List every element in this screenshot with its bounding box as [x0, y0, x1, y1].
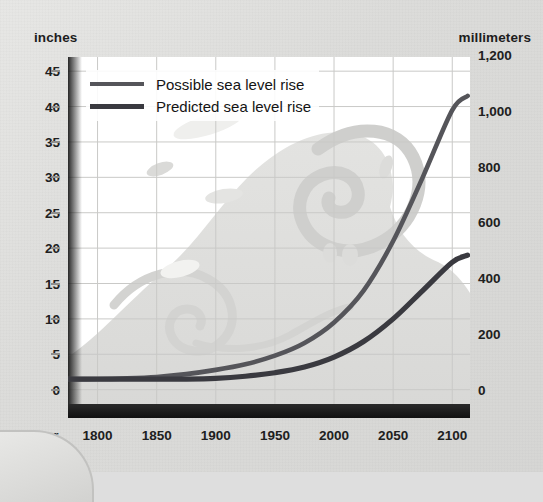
left-tick-mark	[51, 106, 60, 108]
right-tick-label: 600	[478, 215, 501, 230]
legend-swatch-possible-icon	[90, 82, 144, 86]
left-tick-mark	[51, 212, 60, 214]
right-tick-label: 800	[478, 159, 501, 174]
x-tick-label: 2100	[437, 428, 467, 443]
right-tick-label: 1,000	[478, 104, 512, 119]
x-tick-label: 1850	[142, 428, 172, 443]
x-tick-label: 1900	[201, 428, 231, 443]
left-tick-mark	[51, 141, 60, 143]
left-tick-mark	[51, 283, 60, 285]
right-tick-label: 0	[478, 382, 486, 397]
left-tick-mark	[51, 70, 60, 72]
left-axis-units-label: inches	[34, 30, 77, 45]
right-tick-label: 1,200	[478, 48, 512, 63]
left-tick-mark	[51, 389, 60, 391]
legend-item-possible: Possible sea level rise	[90, 73, 311, 95]
left-axis-ticks: 051015202530354045	[16, 57, 60, 418]
legend-item-predicted: Predicted sea level rise	[90, 95, 311, 117]
x-axis-ticks: 1800185019001950200020502100	[68, 428, 470, 452]
left-tick-mark	[51, 353, 60, 355]
left-tick-mark	[51, 176, 60, 178]
right-axis-ticks: 02004006008001,0001,200	[478, 57, 538, 418]
legend-label-possible: Possible sea level rise	[156, 76, 304, 93]
legend-label-predicted: Predicted sea level rise	[156, 98, 311, 115]
x-tick-label: 1800	[83, 428, 113, 443]
x-axis-name-label: Year	[30, 428, 59, 443]
x-tick-label: 2000	[319, 428, 349, 443]
right-axis-units-label: millimeters	[459, 30, 531, 45]
legend-swatch-predicted-icon	[90, 104, 144, 109]
chart-legend: Possible sea level rise Predicted sea le…	[86, 70, 319, 121]
left-tick-mark	[51, 318, 60, 320]
left-tick-mark	[51, 247, 60, 249]
x-tick-label: 2050	[378, 428, 408, 443]
x-tick-label: 1950	[260, 428, 290, 443]
right-tick-label: 400	[478, 271, 501, 286]
right-tick-label: 200	[478, 326, 501, 341]
